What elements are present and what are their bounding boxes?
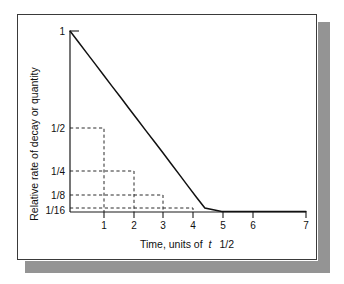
x-tick-label-7: 7 xyxy=(303,220,309,231)
x-axis-title-post: 1/2 xyxy=(219,238,234,250)
figure-shadow-right xyxy=(318,22,330,268)
decay-curve xyxy=(70,31,306,212)
guide-halflife-2 xyxy=(70,171,134,212)
guide-halflife-1 xyxy=(70,128,104,212)
decay-chart: Relative rate of decay or quantity 1 1/2… xyxy=(17,14,317,260)
x-tick-label-6: 6 xyxy=(250,220,256,231)
x-axis-title: Time, units of t 1/2 xyxy=(140,238,234,250)
x-tick-label-3: 3 xyxy=(160,220,166,231)
y-axis-title: Relative rate of decay or quantity xyxy=(28,67,40,221)
x-tick-label-4: 4 xyxy=(190,220,196,231)
guide-halflife-3 xyxy=(70,195,163,212)
x-tick-label-5: 5 xyxy=(220,220,226,231)
y-tick-label-1-4: 1/4 xyxy=(51,166,65,177)
y-tick-label-1: 1 xyxy=(59,26,65,37)
x-tick-label-1: 1 xyxy=(101,220,107,231)
y-tick-label-1-8: 1/8 xyxy=(51,190,65,201)
figure-shadow-bottom xyxy=(25,261,330,273)
x-tick-label-2: 2 xyxy=(131,220,137,231)
y-tick-label-1-2: 1/2 xyxy=(51,123,65,134)
x-axis-title-pre: Time, units of xyxy=(140,238,203,250)
y-tick-label-1-16: 1/16 xyxy=(46,205,66,216)
x-axis-title-italic-t: t xyxy=(209,238,213,250)
